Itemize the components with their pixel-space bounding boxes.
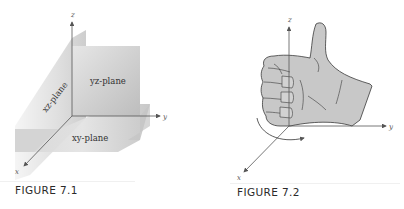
xy-plane-label: xy-plane [72,133,108,143]
coordinate-planes-diagram: z y x yz-plane xz-plane xy-plane [0,0,200,180]
z-axis-label: z [70,11,75,19]
figure-coordinate-planes: z y x yz-plane xz-plane xy-plane FIGURE … [0,0,200,209]
figure-caption: FIGURE 7.2 [237,186,300,198]
figure-caption: FIGURE 7.1 [15,184,78,196]
x-axis-label: x [15,168,19,176]
y-axis-label: y [388,123,394,131]
z-axis-label: z [287,16,292,24]
caption-divider [0,181,135,182]
figure-right-hand-rule: z y x FIGURE 7.2 [200,0,404,209]
right-hand-rule-diagram: z y x [200,0,404,182]
hand-icon [261,23,372,126]
y-axis-label: y [162,113,168,121]
x-axis-label: x [237,174,241,182]
yz-plane-label: yz-plane [89,76,126,86]
caption-divider [230,183,400,184]
